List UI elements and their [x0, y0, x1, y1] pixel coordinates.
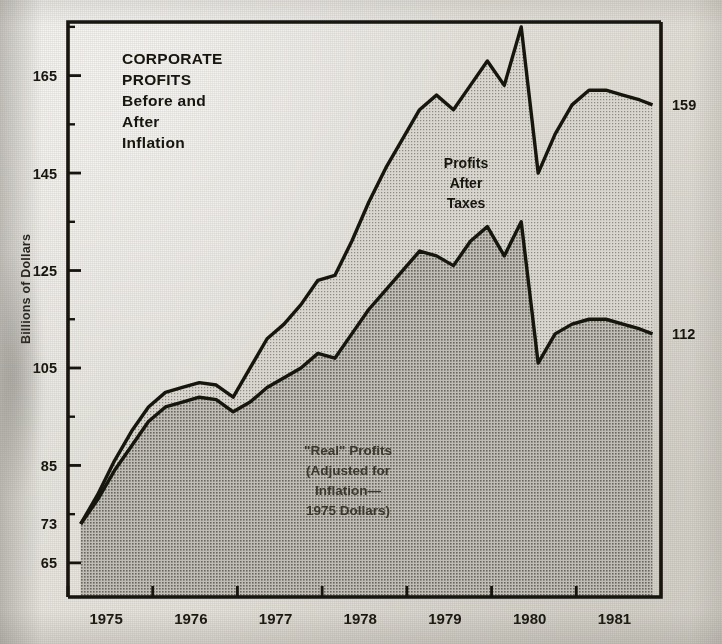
- x-tick-label: 1980: [513, 610, 546, 627]
- lower-series-annotation-line: 1975 Dollars): [306, 503, 390, 518]
- chart-title-line: PROFITS: [122, 71, 191, 88]
- annotation-profits-after-taxes: ProfitsAfterTaxes: [444, 155, 489, 211]
- lower-series-annotation-line: "Real" Profits: [304, 443, 392, 458]
- chart-title-line: CORPORATE: [122, 50, 223, 67]
- start-value-label: 73: [41, 516, 57, 532]
- x-tick-label: 1978: [344, 610, 377, 627]
- x-tick-label: 1979: [428, 610, 461, 627]
- chart-title-line: Before and: [122, 92, 206, 109]
- y-tick-label: 85: [41, 458, 57, 474]
- x-axis-tick-labels: 1975197619771978197919801981: [89, 610, 631, 627]
- y-tick-label: 105: [33, 360, 57, 376]
- y-axis-ticks: [68, 27, 81, 563]
- lower-end-value-label: 112: [672, 326, 695, 342]
- chart-title-block: CORPORATEPROFITSBefore andAfterInflation: [122, 50, 223, 151]
- upper-series-annotation-line: After: [450, 175, 483, 191]
- y-tick-label: 125: [33, 263, 57, 279]
- x-tick-label: 1976: [174, 610, 207, 627]
- y-tick-label: 65: [41, 555, 57, 571]
- upper-series-annotation-line: Taxes: [447, 195, 486, 211]
- lower-series-annotation-line: Inflation—: [315, 483, 381, 498]
- chart-title-line: Inflation: [122, 134, 185, 151]
- y-axis-tick-labels: 1651451251058565: [33, 68, 57, 571]
- chart-canvas: 1651451251058565 19751976197719781979198…: [0, 0, 722, 644]
- x-tick-label: 1981: [598, 610, 631, 627]
- y-tick-label: 165: [33, 68, 57, 84]
- y-tick-label: 145: [33, 166, 57, 182]
- lower-series-annotation-line: (Adjusted for: [306, 463, 391, 478]
- x-tick-label: 1977: [259, 610, 292, 627]
- chart-title-line: After: [122, 113, 160, 130]
- upper-end-value-label: 159: [672, 97, 696, 113]
- upper-series-annotation-line: Profits: [444, 155, 489, 171]
- x-tick-label: 1975: [89, 610, 122, 627]
